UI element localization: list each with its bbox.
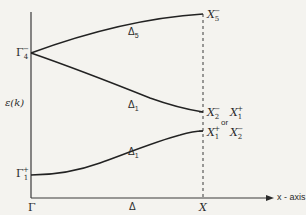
upper-band-label-base: Δ	[128, 26, 135, 37]
x1-mid-sup: +	[237, 105, 243, 113]
x1-plus-label-mid: X1+	[230, 107, 248, 118]
lower-band-label-sub: 1	[135, 152, 139, 159]
x-point-text: X	[199, 201, 207, 214]
or-text: or	[221, 118, 228, 127]
or-label: or	[221, 119, 228, 127]
gamma1-sub: 1	[24, 174, 28, 182]
x-point-label: X	[199, 202, 207, 213]
k-axis-label-text: x - axis	[277, 192, 306, 202]
energy-axis-label-text: ε(k)	[5, 97, 24, 108]
x2-minus-label-mid: X2−	[207, 107, 225, 118]
x1-low-sup: +	[214, 125, 220, 133]
upper-band-label-sub: 5	[135, 32, 139, 39]
middle-band-label-base: Δ	[128, 99, 135, 110]
lower-band-curve	[31, 131, 203, 175]
x2-mid-sub: 2	[215, 113, 219, 121]
x2-low-sub: 2	[238, 133, 242, 141]
x1-plus-label-low: X1+	[207, 127, 225, 138]
gamma1-sup: +	[23, 166, 29, 174]
delta-point-text: Δ	[129, 201, 136, 212]
gamma4-minus-label: Γ4−	[16, 47, 34, 58]
middle-band-label-sub: 1	[135, 105, 139, 112]
x1-low-sub: 1	[215, 133, 219, 141]
x5-minus-label: X5−	[207, 9, 225, 20]
k-axis-arrowhead-icon	[266, 195, 274, 201]
lower-band-label: Δ1	[128, 147, 139, 157]
gamma1-plus-label: Γ1+	[16, 168, 34, 179]
x1-mid-sub: 1	[238, 113, 242, 121]
upper-band-label: Δ5	[128, 27, 139, 37]
x2-mid-sup: −	[214, 105, 220, 113]
band-diagram-canvas	[0, 0, 306, 215]
k-axis-label: x - axis	[277, 193, 306, 202]
gamma4-sup: −	[23, 45, 29, 53]
gamma-point-label: Γ	[28, 202, 36, 213]
delta-point-label: Δ	[129, 202, 136, 212]
middle-band-label: Δ1	[128, 100, 139, 110]
lower-band-label-base: Δ	[128, 146, 135, 157]
upper-band-curve	[31, 14, 203, 53]
x5-sub: 5	[215, 15, 219, 23]
x2-minus-label-low: X2−	[230, 127, 248, 138]
x5-sup: −	[214, 7, 220, 15]
energy-axis-label: ε(k)	[5, 98, 24, 108]
x2-low-sup: −	[237, 125, 243, 133]
gamma4-sub: 4	[24, 53, 28, 61]
gamma-point-text: Γ	[28, 201, 36, 214]
middle-band-curve	[31, 53, 203, 112]
